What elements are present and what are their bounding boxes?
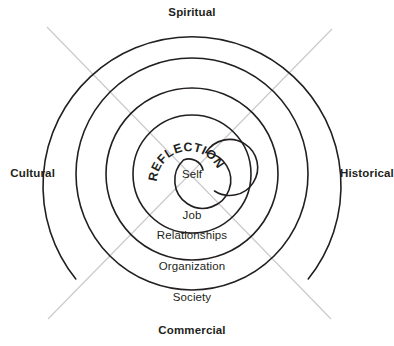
quadrant-label-spiritual: Spiritual — [168, 6, 215, 18]
quadrant-label-cultural: Cultural — [10, 167, 55, 179]
quadrant-label-historical: Historical — [340, 167, 394, 179]
ring-label-organization: Organization — [159, 260, 225, 272]
diagram-root: REFLECTION Self Job Relationships Organi… — [0, 0, 394, 346]
ring-society-arc — [43, 37, 341, 279]
ring-label-relationships: Relationships — [157, 229, 227, 241]
center-label-self: Self — [182, 168, 203, 180]
quadrant-label-commercial: Commercial — [158, 324, 225, 336]
ring-label-job: Job — [183, 209, 202, 221]
ring-label-society: Society — [173, 291, 212, 303]
rings-group — [43, 37, 341, 290]
concentric-circles-diagram: REFLECTION Self Job Relationships Organi… — [0, 0, 394, 346]
